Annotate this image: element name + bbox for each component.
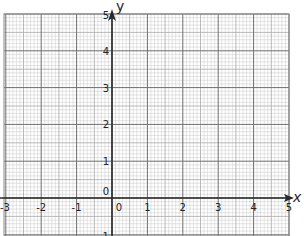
y-axis-label: y bbox=[116, 0, 124, 14]
x-tick-label: -3 bbox=[0, 202, 10, 213]
y-tick-label-partial: -1 bbox=[99, 231, 109, 236]
x-tick-labels: -3-2-1012345 bbox=[0, 202, 292, 213]
y-tick-label: 1 bbox=[103, 156, 109, 167]
y-tick-label: 2 bbox=[103, 119, 109, 130]
x-tick-label: 4 bbox=[250, 202, 256, 213]
y-tick-label: 5 bbox=[103, 10, 109, 21]
x-tick-label: -1 bbox=[72, 202, 82, 213]
y-tick-labels: 012345 bbox=[103, 10, 109, 197]
y-tick-label: 4 bbox=[103, 46, 109, 57]
y-tick-label: 3 bbox=[103, 83, 109, 94]
x-tick-label: 1 bbox=[144, 202, 150, 213]
graph-paper: x y -3-2-1012345 012345 -1 bbox=[0, 0, 304, 236]
x-tick-label: 2 bbox=[180, 202, 186, 213]
x-tick-label: -2 bbox=[36, 202, 46, 213]
x-tick-label: 3 bbox=[215, 202, 221, 213]
x-axis-label: x bbox=[292, 189, 302, 205]
y-tick-label: 0 bbox=[103, 186, 109, 197]
x-tick-label: 5 bbox=[286, 202, 292, 213]
x-tick-label: 0 bbox=[116, 202, 122, 213]
